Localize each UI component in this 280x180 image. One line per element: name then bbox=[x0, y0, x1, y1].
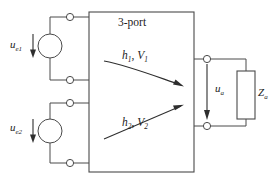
ue2-subscript: e2 bbox=[16, 128, 23, 136]
za-subscript: a bbox=[264, 93, 268, 101]
v2-subscript: 2 bbox=[144, 122, 148, 131]
output-port-wiring bbox=[194, 55, 255, 129]
terminal-output-bottom bbox=[203, 122, 210, 129]
ue1-label: ue1 bbox=[10, 39, 22, 53]
ue1-arrow bbox=[30, 34, 36, 58]
h1v1-label: h1, V1 bbox=[122, 50, 148, 64]
za-label: Za bbox=[258, 87, 268, 101]
ua-subscript: a bbox=[221, 89, 225, 97]
circuit-diagram: 3-port h1, V1 h2, V2 ue1 ue2 ua Za bbox=[0, 0, 280, 180]
v1-subscript: 1 bbox=[144, 55, 148, 64]
ue2-arrow bbox=[30, 119, 36, 143]
voltage-source-2-symbol bbox=[38, 119, 62, 143]
ue2-label: ue2 bbox=[10, 122, 22, 136]
terminal-output-top bbox=[203, 55, 210, 62]
input-port-1-wiring bbox=[30, 13, 89, 83]
terminal-input2-top bbox=[66, 99, 73, 106]
input-port-2-wiring bbox=[30, 99, 89, 166]
terminal-input2-bottom bbox=[66, 159, 73, 166]
h2v2-label: h2, V2 bbox=[122, 117, 148, 131]
load-impedance-symbol bbox=[237, 71, 255, 119]
voltage-source-1-symbol bbox=[38, 34, 62, 58]
ue1-subscript: e1 bbox=[16, 45, 23, 53]
three-port-label: 3-port bbox=[118, 17, 146, 29]
three-port-block bbox=[89, 12, 194, 172]
ua-label: ua bbox=[215, 83, 224, 97]
path-arrow-h1v1 bbox=[104, 61, 184, 87]
ua-arrow bbox=[204, 64, 210, 120]
terminal-input1-bottom bbox=[66, 76, 73, 83]
terminal-input1-top bbox=[66, 13, 73, 20]
